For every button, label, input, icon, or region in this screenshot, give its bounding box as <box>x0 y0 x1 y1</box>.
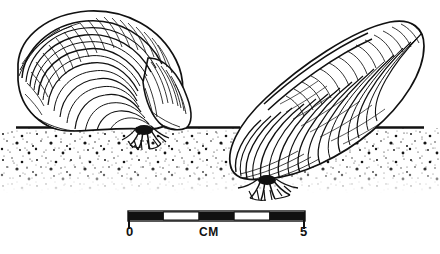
scale-segment-1 <box>128 212 163 220</box>
scale-bar <box>128 211 305 229</box>
scale-segment-3 <box>199 212 234 220</box>
scale-segment-5 <box>270 212 305 220</box>
substrate-sediment <box>0 128 440 194</box>
illustration-figure: 0 CM 5 <box>0 0 440 254</box>
scale-segment-2 <box>163 212 198 220</box>
scale-segment-4 <box>234 212 269 220</box>
mussel-illustration-svg <box>0 0 440 254</box>
